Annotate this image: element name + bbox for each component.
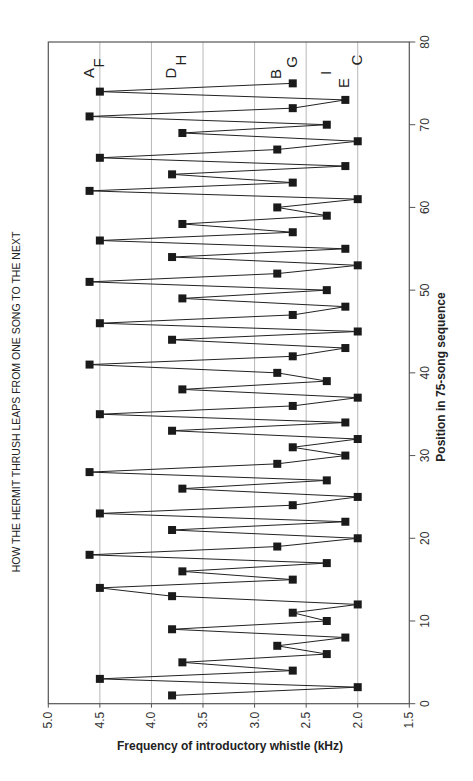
hermit-thrush-chart: 01020304050607080 5.04.54.03.53.02.52.01… xyxy=(0,0,473,781)
data-point xyxy=(96,410,104,418)
position-axis-title: Position in 75-song sequence xyxy=(434,292,448,462)
frequency-tick-label: 3.5 xyxy=(196,711,210,728)
data-point xyxy=(86,278,94,286)
data-point xyxy=(273,369,281,377)
data-point xyxy=(341,245,349,253)
data-point xyxy=(96,154,104,162)
data-point xyxy=(273,642,281,650)
data-point xyxy=(168,336,176,344)
data-point xyxy=(96,509,104,517)
data-point xyxy=(168,170,176,178)
data-point xyxy=(86,361,94,369)
data-point xyxy=(354,493,362,501)
data-point xyxy=(289,443,297,451)
data-point xyxy=(289,501,297,509)
data-point xyxy=(168,691,176,699)
data-point xyxy=(341,303,349,311)
data-point xyxy=(289,576,297,584)
data-point xyxy=(96,584,104,592)
data-point xyxy=(354,327,362,335)
data-point xyxy=(354,435,362,443)
data-point xyxy=(178,294,186,302)
frequency-tick-label: 2.5 xyxy=(299,711,313,728)
data-point xyxy=(289,104,297,112)
position-tick-label: 0 xyxy=(418,700,432,707)
data-point xyxy=(86,112,94,120)
data-point xyxy=(341,518,349,526)
data-point xyxy=(178,385,186,393)
data-point xyxy=(289,609,297,617)
data-point xyxy=(354,195,362,203)
position-tick-label: 40 xyxy=(418,366,432,380)
position-axis-ticks: 01020304050607080 xyxy=(409,35,432,707)
data-point xyxy=(273,543,281,551)
frequency-tick-label: 5.0 xyxy=(41,711,55,728)
data-point xyxy=(341,96,349,104)
data-point xyxy=(289,228,297,236)
song-type-labels: AFDHBGIEC xyxy=(80,54,365,88)
data-point xyxy=(168,592,176,600)
position-tick-label: 10 xyxy=(418,614,432,628)
position-tick-label: 70 xyxy=(418,118,432,132)
data-point xyxy=(96,319,104,327)
position-tick-label: 30 xyxy=(418,449,432,463)
data-point xyxy=(289,352,297,360)
data-point xyxy=(354,394,362,402)
frequency-tick-label: 1.5 xyxy=(402,711,416,728)
data-point xyxy=(289,179,297,187)
data-point xyxy=(341,344,349,352)
data-point xyxy=(178,658,186,666)
song-label-f: F xyxy=(90,58,107,67)
frequency-axis-title: Frequency of introductory whistle (kHz) xyxy=(117,739,343,753)
data-point xyxy=(354,600,362,608)
position-tick-label: 50 xyxy=(418,283,432,297)
song-label-d: D xyxy=(162,67,179,78)
data-point xyxy=(178,220,186,228)
song-label-a: A xyxy=(80,68,97,78)
data-point xyxy=(168,625,176,633)
frequency-tick-label: 2.0 xyxy=(351,711,365,728)
data-point xyxy=(273,460,281,468)
data-point xyxy=(354,261,362,269)
data-point xyxy=(289,311,297,319)
song-label-c: C xyxy=(348,54,365,65)
data-point xyxy=(96,88,104,96)
data-point xyxy=(341,418,349,426)
data-point xyxy=(168,526,176,534)
data-point xyxy=(289,79,297,87)
data-point xyxy=(323,559,331,567)
data-point xyxy=(341,162,349,170)
data-point xyxy=(323,121,331,129)
data-point xyxy=(323,286,331,294)
song-label-b: B xyxy=(267,69,284,79)
frequency-tick-label: 3.0 xyxy=(248,711,262,728)
data-point xyxy=(354,534,362,542)
data-point xyxy=(323,476,331,484)
data-point xyxy=(273,203,281,211)
data-point xyxy=(354,683,362,691)
chart-title: HOW THE HERMIT THRUSH LEAPS FROM ONE SON… xyxy=(10,231,22,572)
frequency-tick-label: 4.5 xyxy=(93,711,107,728)
position-tick-label: 80 xyxy=(418,35,432,49)
data-point xyxy=(178,485,186,493)
data-point xyxy=(273,146,281,154)
data-point xyxy=(96,237,104,245)
data-point xyxy=(323,377,331,385)
data-point xyxy=(323,212,331,220)
data-point xyxy=(289,667,297,675)
data-point xyxy=(273,270,281,278)
data-point xyxy=(86,187,94,195)
frequency-tick-label: 4.0 xyxy=(144,711,158,728)
data-point xyxy=(168,427,176,435)
data-point xyxy=(86,468,94,476)
gridlines xyxy=(100,42,358,704)
data-point xyxy=(168,253,176,261)
data-point xyxy=(323,617,331,625)
data-point xyxy=(178,129,186,137)
position-tick-label: 20 xyxy=(418,531,432,545)
data-point xyxy=(323,650,331,658)
data-point xyxy=(289,402,297,410)
data-point xyxy=(341,634,349,642)
data-point xyxy=(178,567,186,575)
series-line xyxy=(90,83,358,695)
